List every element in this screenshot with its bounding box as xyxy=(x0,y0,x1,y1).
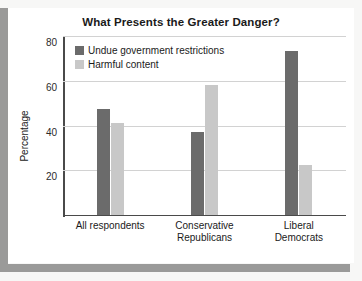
bar[interactable] xyxy=(299,165,312,214)
page-frame-bottom-edge xyxy=(0,264,350,272)
bar-group xyxy=(191,85,218,215)
bar[interactable] xyxy=(205,85,218,215)
bar[interactable] xyxy=(285,51,298,214)
x-axis-category-label: Conservative Republicans xyxy=(157,220,251,244)
bar-group xyxy=(285,51,312,214)
bar-group xyxy=(97,109,124,214)
bar-chart: What Presents the Greater Danger? Percen… xyxy=(8,8,354,263)
y-axis-label: Percentage xyxy=(19,110,30,161)
bar[interactable] xyxy=(191,132,204,215)
legend-label: Harmful content xyxy=(88,59,159,70)
plot-area: 20406080 Undue government restrictions H… xyxy=(63,37,346,216)
x-axis-category-label: Liberal Democrats xyxy=(252,220,346,244)
bar[interactable] xyxy=(111,123,124,215)
legend-label: Undue government restrictions xyxy=(88,45,224,56)
legend-item: Undue government restrictions xyxy=(75,45,224,56)
x-axis-category-label: All respondents xyxy=(63,220,157,232)
chart-title: What Presents the Greater Danger? xyxy=(8,16,354,28)
gridline xyxy=(63,36,346,37)
page-frame-left-edge xyxy=(0,8,8,272)
legend-item: Harmful content xyxy=(75,59,224,70)
legend-swatch-harmful-content xyxy=(75,60,84,69)
x-axis-line xyxy=(63,215,346,217)
bar[interactable] xyxy=(97,109,110,214)
chart-legend: Undue government restrictions Harmful co… xyxy=(75,45,224,73)
y-axis-line xyxy=(63,37,65,217)
legend-swatch-undue-government-restrictions xyxy=(75,46,84,55)
